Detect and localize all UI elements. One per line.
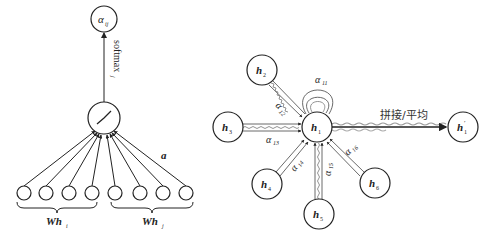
edge-label-a11: α 11 — [315, 74, 328, 86]
svg-text:α: α — [322, 170, 333, 176]
svg-text:Wh: Wh — [142, 215, 158, 227]
node-h3: h 3 — [213, 112, 243, 142]
svg-text:14: 14 — [297, 160, 305, 168]
svg-text:h: h — [261, 178, 267, 190]
edge-label-a15: α 15 — [322, 163, 334, 176]
svg-text:h: h — [222, 121, 228, 133]
node-h4: h 4 — [252, 169, 282, 199]
svg-text:11: 11 — [322, 80, 328, 86]
svg-text:4: 4 — [268, 186, 271, 192]
node-h5: h 5 — [304, 199, 334, 229]
edge-label-a13: α 13 — [266, 134, 279, 146]
brace-wh-j — [111, 202, 193, 213]
svg-text:13: 13 — [273, 140, 279, 146]
svg-text:h: h — [313, 208, 319, 220]
attention-coefficient-node: α ij — [91, 6, 117, 32]
node-h1-prime: h ′ 1 — [448, 112, 478, 142]
svg-text:h: h — [311, 121, 317, 133]
svg-text:2: 2 — [263, 72, 266, 78]
svg-text:ij: ij — [105, 21, 109, 27]
svg-text:Wh: Wh — [46, 215, 62, 227]
wh-i-label: Wh i — [46, 215, 68, 229]
svg-text:h: h — [369, 177, 375, 189]
multi-head-attention-diagram: 拼接/平均 α 11 α 12 α 13 α 14 α 15 α 16 h — [213, 55, 478, 229]
svg-text:α: α — [98, 13, 104, 25]
weight-vector-label: a — [161, 149, 167, 161]
input-nodes — [17, 186, 193, 200]
gat-diagram: α ij softmax j a — [0, 0, 494, 247]
node-h6: h 6 — [360, 168, 390, 198]
attention-mechanism-diagram: α ij softmax j a — [17, 6, 193, 229]
edge-label-a14: α 14 — [288, 156, 305, 174]
svg-text:1: 1 — [464, 129, 467, 135]
node-h1: h 1 — [302, 112, 332, 142]
svg-text:j: j — [110, 75, 116, 78]
svg-text:5: 5 — [320, 216, 323, 222]
edge-label-a12: α 12 — [273, 100, 291, 118]
edge-label-a16: α 16 — [342, 140, 360, 158]
brace-wh-i — [17, 202, 97, 213]
svg-text:j: j — [161, 223, 164, 229]
leakyrelu-activation-node — [88, 102, 120, 134]
svg-text:softmax: softmax — [112, 40, 123, 72]
svg-text:h: h — [256, 64, 262, 76]
concat-average-label: 拼接/平均 — [380, 108, 428, 122]
svg-text:16: 16 — [351, 145, 359, 153]
aggregate-arrow — [332, 123, 446, 131]
svg-text:3: 3 — [229, 129, 232, 135]
softmax-label: softmax j — [110, 40, 123, 78]
svg-text:1: 1 — [318, 129, 321, 135]
svg-text:α: α — [266, 134, 272, 145]
svg-text:15: 15 — [328, 163, 334, 169]
node-h2: h 2 — [247, 55, 277, 85]
svg-text:h: h — [457, 121, 463, 133]
svg-text:6: 6 — [376, 185, 379, 191]
svg-text:i: i — [66, 223, 68, 229]
wh-j-label: Wh j — [142, 215, 164, 229]
svg-text:α: α — [315, 74, 321, 85]
